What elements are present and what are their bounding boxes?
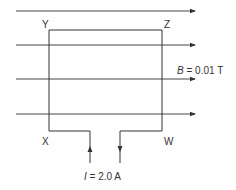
field-value: = 0.01 T [184,65,224,76]
field-label: B = 0.01 T [177,66,223,76]
field-symbol: B [177,65,184,76]
current-label: I = 2.0 A [84,172,121,182]
circuit-diagram [0,0,236,190]
corner-label-x: X [42,137,49,147]
current-value: = 2.0 A [87,171,121,182]
corner-label-y: Y [42,20,49,30]
current-up-arrow-icon [88,146,93,152]
coil-loop [49,30,162,163]
corner-label-z: Z [164,20,170,30]
current-down-arrow-icon [118,146,123,152]
corner-label-w: W [164,137,173,147]
